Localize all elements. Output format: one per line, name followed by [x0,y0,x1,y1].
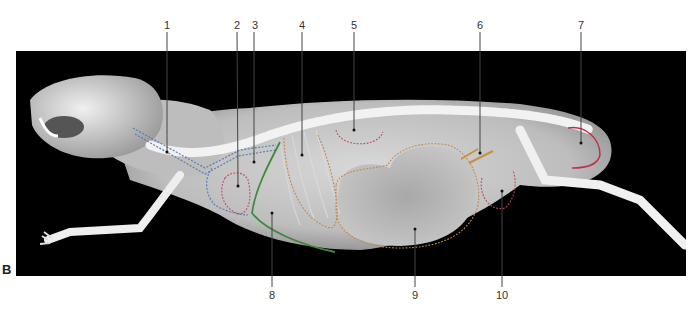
label-7: 7 [578,19,584,31]
head-silhouette [30,75,163,158]
panel-label: B [2,262,11,277]
label-2: 2 [234,19,240,31]
radiograph-illustration [0,0,696,315]
label-1: 1 [164,19,170,31]
label-5: 5 [351,19,357,31]
label-8: 8 [269,289,275,301]
label-6: 6 [477,19,483,31]
label-4: 4 [299,19,305,31]
label-9: 9 [412,289,418,301]
label-10: 10 [496,289,508,301]
label-3: 3 [252,19,258,31]
